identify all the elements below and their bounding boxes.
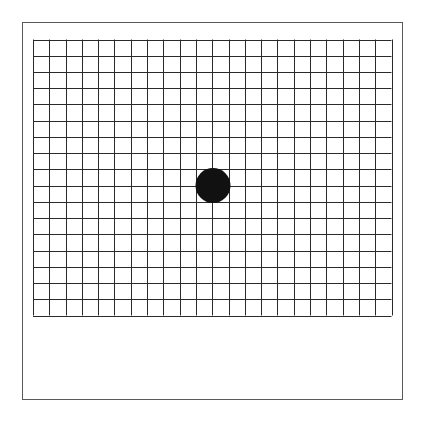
fixation-dot: [196, 168, 231, 203]
amsler-grid: [0, 0, 424, 426]
